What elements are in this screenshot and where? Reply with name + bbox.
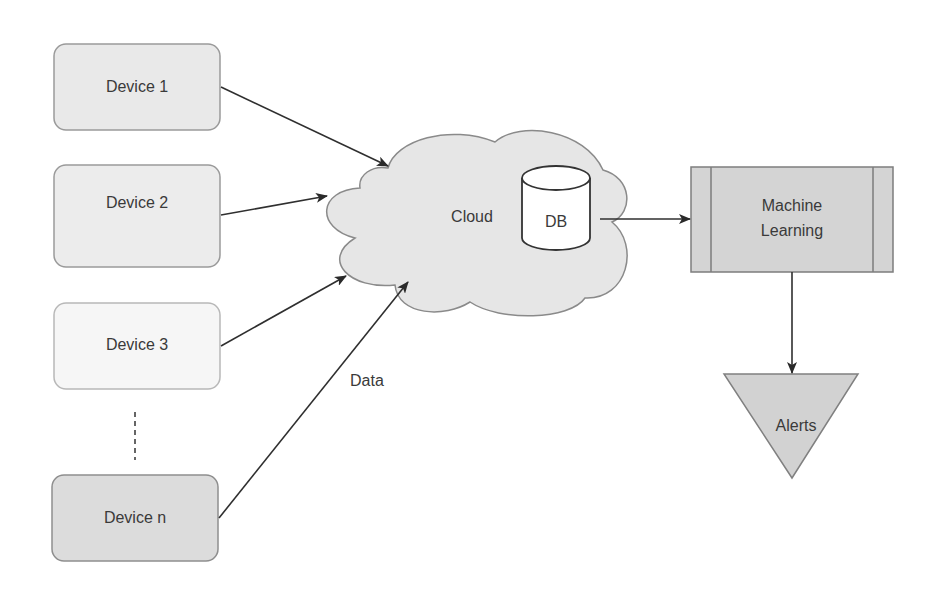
- device-node-n[interactable]: Device n: [52, 475, 218, 561]
- alerts-label: Alerts: [776, 417, 817, 434]
- device-label: Device 3: [106, 336, 168, 353]
- device-label: Device 1: [106, 78, 168, 95]
- device-label: Device 2: [106, 194, 168, 211]
- device-node-3[interactable]: Device 3: [54, 303, 220, 389]
- device-label: Device n: [104, 509, 166, 526]
- edge-label-data: Data: [350, 372, 384, 389]
- ml-box: [691, 167, 893, 272]
- edge-device3-cloud[interactable]: [221, 276, 346, 346]
- database-label: DB: [545, 213, 567, 230]
- ml-label-line1: Machine: [762, 197, 823, 214]
- device-node-1[interactable]: Device 1: [54, 44, 220, 130]
- ml-label-line2: Learning: [761, 222, 823, 239]
- alerts-node[interactable]: Alerts: [724, 374, 858, 478]
- database-node[interactable]: DB: [522, 166, 590, 250]
- machine-learning-node[interactable]: Machine Learning: [691, 167, 893, 272]
- edge-device1-cloud[interactable]: [221, 87, 388, 166]
- edge-device2-cloud[interactable]: [221, 196, 327, 215]
- architecture-diagram: Device 1 Device 2 Device 3 Device n Clou…: [0, 0, 942, 614]
- device-box: [54, 165, 220, 267]
- edge-devicen-cloud[interactable]: [219, 282, 408, 518]
- device-node-2[interactable]: Device 2: [54, 165, 220, 267]
- database-cylinder-top: [522, 166, 590, 190]
- cloud-label: Cloud: [451, 208, 493, 225]
